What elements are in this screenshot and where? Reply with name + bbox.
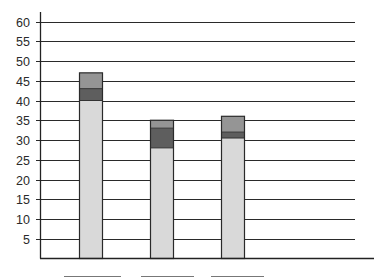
y-tick-label: 45 <box>16 75 30 89</box>
y-axis-tick-labels: 51015202530354045505560 <box>16 16 30 247</box>
bar-segment-1 <box>80 101 103 259</box>
bar-segment-2 <box>80 89 103 101</box>
y-tick-label: 5 <box>23 233 30 247</box>
y-tick-label: 40 <box>16 95 30 109</box>
bars <box>80 73 245 259</box>
bar-segment-3 <box>80 73 103 89</box>
y-tick-label: 50 <box>16 55 30 69</box>
bar-segment-1 <box>151 148 174 259</box>
bar-3 <box>222 116 245 258</box>
y-tick-label: 35 <box>16 114 30 128</box>
bar-segment-3 <box>151 120 174 128</box>
bar-2 <box>151 120 174 258</box>
y-tick-label: 60 <box>16 16 30 30</box>
y-tick-label: 55 <box>16 35 30 49</box>
y-tick-label: 20 <box>16 174 30 188</box>
y-tick-label: 30 <box>16 134 30 148</box>
bar-segment-3 <box>222 116 245 132</box>
bar-1 <box>80 73 103 259</box>
bar-segment-1 <box>222 138 245 258</box>
y-tick-label: 15 <box>16 193 30 207</box>
stacked-bar-chart: 51015202530354045505560 <box>0 0 374 278</box>
y-tick-label: 10 <box>16 213 30 227</box>
bar-segment-2 <box>222 132 245 138</box>
y-tick-label: 25 <box>16 154 30 168</box>
bar-segment-2 <box>151 128 174 148</box>
